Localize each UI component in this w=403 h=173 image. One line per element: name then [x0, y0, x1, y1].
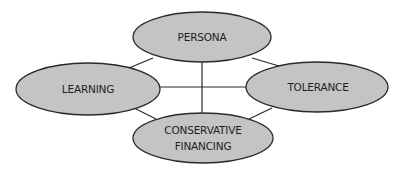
node-tolerance: TOLERANCE [246, 62, 388, 112]
edge-persona-learning [129, 58, 153, 68]
node-conservative-financing-label-line1: CONSERVATIVE [164, 124, 241, 136]
edge-persona-tolerance [252, 58, 279, 66]
relationship-diagram: PERSONA LEARNING TOLERANCE CONSERVATIVE … [0, 0, 403, 173]
node-persona: PERSONA [133, 12, 271, 62]
node-learning: LEARNING [16, 63, 160, 115]
edge-tolerance-conservative-financing [249, 108, 272, 119]
node-conservative-financing: CONSERVATIVE FINANCING [133, 113, 273, 163]
node-conservative-financing-shape [133, 113, 273, 163]
node-tolerance-label: TOLERANCE [286, 81, 348, 93]
node-persona-label: PERSONA [178, 31, 228, 43]
node-learning-label: LEARNING [62, 83, 114, 95]
edge-learning-conservative-financing [134, 108, 156, 119]
node-conservative-financing-label-line2: FINANCING [175, 140, 232, 152]
